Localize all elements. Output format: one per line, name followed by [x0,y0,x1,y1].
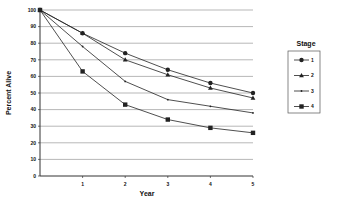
y-tick-label: 70 [30,57,36,63]
x-tick-label: 4 [209,181,212,187]
dot-marker [167,99,169,101]
dot-marker [252,112,254,114]
y-tick-label: 0 [33,173,36,179]
square-marker [166,117,170,121]
x-tick-label: 1 [81,181,84,187]
square-marker [208,126,212,130]
y-tick-label: 10 [30,156,36,162]
square-marker [123,102,127,106]
y-tick-label: 60 [30,73,36,79]
dot-marker [82,46,84,48]
circle-marker [166,68,170,72]
y-axis-ticks: 0102030405060708090100 [28,7,40,179]
x-tick-label: 5 [252,181,255,187]
legend-label: 4 [311,103,314,109]
dot-marker [124,80,126,82]
x-tick-label: 2 [124,181,127,187]
y-tick-label: 50 [30,90,36,96]
gridlines [40,10,253,159]
legend-label: 2 [311,72,314,78]
y-axis-label: Percent Alive [5,71,12,115]
circle-marker [251,91,255,95]
triangle-marker [123,57,128,61]
x-axis-ticks: 12345 [81,176,254,187]
legend-label: 1 [311,57,314,63]
square-marker [251,131,255,135]
x-tick-label: 3 [166,181,169,187]
dot-marker [210,105,212,107]
y-tick-label: 40 [30,106,36,112]
dot-marker [301,90,303,92]
y-tick-label: 80 [30,40,36,46]
square-marker [299,104,303,108]
survival-chart: 0102030405060708090100 12345 Percent Ali… [0,0,337,209]
x-axis-label: Year [140,190,155,197]
square-marker [80,69,84,73]
y-tick-label: 90 [30,23,36,29]
legend-title: Stage [296,40,315,48]
circle-marker [123,51,127,55]
y-tick-label: 20 [30,140,36,146]
y-tick-label: 30 [30,123,36,129]
square-marker [38,8,42,12]
legend-label: 3 [311,88,314,94]
y-tick-label: 100 [28,7,37,13]
circle-marker [299,58,303,62]
series-stage-1 [38,8,255,95]
legend: Stage 1234 [288,40,320,113]
circle-marker [208,81,212,85]
